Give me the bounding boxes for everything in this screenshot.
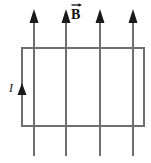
field-line-1-arrowhead-icon (30, 9, 39, 23)
field-line-4 (129, 9, 138, 156)
field-line-2 (62, 9, 71, 156)
vector-arrow-icon (71, 2, 82, 8)
current-direction-arrowhead-icon (18, 83, 27, 95)
current-label-text: I (9, 81, 13, 95)
field-line-4-arrowhead-icon (129, 9, 138, 23)
field-line-3 (96, 9, 105, 156)
diagram-svg (0, 0, 151, 163)
physics-figure-canvas: B I (0, 0, 151, 163)
field-line-3-arrowhead-icon (96, 9, 105, 23)
field-line-1 (30, 9, 39, 156)
current-loop-rectangle (22, 48, 144, 126)
magnetic-field-label: B (71, 4, 80, 22)
field-line-2-arrowhead-icon (62, 9, 71, 23)
current-label: I (9, 82, 13, 94)
